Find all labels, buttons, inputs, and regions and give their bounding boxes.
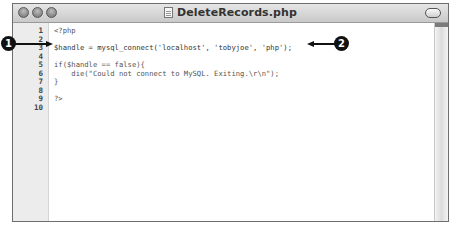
line-number: 10 <box>34 104 43 113</box>
window-title: DeleteRecords.php <box>13 6 448 19</box>
scrollbar-cap <box>435 23 448 27</box>
document-icon[interactable] <box>164 7 173 18</box>
code-line[interactable]: ?> <box>54 95 63 104</box>
callout-badge-2: 2 <box>334 36 349 51</box>
editor-window: DeleteRecords.php 1 2 3 4 5 6 7 8 9 10 <… <box>12 3 449 222</box>
title-bar[interactable]: DeleteRecords.php <box>13 4 448 23</box>
code-line[interactable]: $handle = mysql_connect('localhost', 'to… <box>54 44 292 53</box>
code-line[interactable]: <?php <box>54 27 76 36</box>
line-number-gutter: 1 2 3 4 5 6 7 8 9 10 <box>13 23 49 221</box>
code-editor[interactable]: <?php $handle = mysql_connect('localhost… <box>54 23 434 221</box>
code-line[interactable]: } <box>54 78 58 87</box>
callout-1-arrow-line <box>14 43 48 45</box>
window-title-text: DeleteRecords.php <box>177 6 297 19</box>
toolbar-toggle-button[interactable] <box>425 8 441 18</box>
code-line[interactable]: die("Could not connect to MySQL. Exiting… <box>54 70 279 79</box>
callout-2-arrow-line <box>313 43 335 45</box>
arrow-right-icon <box>46 41 53 47</box>
vertical-scrollbar[interactable] <box>434 23 448 221</box>
